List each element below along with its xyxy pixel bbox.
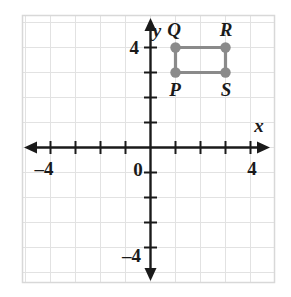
coordinate-plane-figure: y x 4 –4 –4 4 0 Q R P S (0, 0, 291, 297)
x-tick-label-neg4: –4 (34, 158, 55, 179)
point-marker-p (170, 67, 180, 77)
x-axis-label: x (253, 115, 264, 136)
y-tick-label-4: 4 (130, 37, 140, 58)
coordinate-plane-svg: y x 4 –4 –4 4 0 Q R P S (0, 0, 291, 297)
y-axis-label: y (151, 20, 162, 41)
point-label-p: P (168, 79, 181, 100)
point-marker-r (220, 42, 230, 52)
point-label-s: S (221, 79, 232, 100)
origin-label: 0 (133, 159, 143, 180)
point-marker-q (170, 42, 180, 52)
x-tick-label-4: 4 (247, 158, 257, 179)
point-label-r: R (219, 19, 233, 40)
plot-background (22, 15, 275, 283)
point-label-q: Q (167, 19, 181, 40)
y-tick-label-neg4: –4 (121, 245, 142, 266)
point-marker-s (220, 67, 230, 77)
